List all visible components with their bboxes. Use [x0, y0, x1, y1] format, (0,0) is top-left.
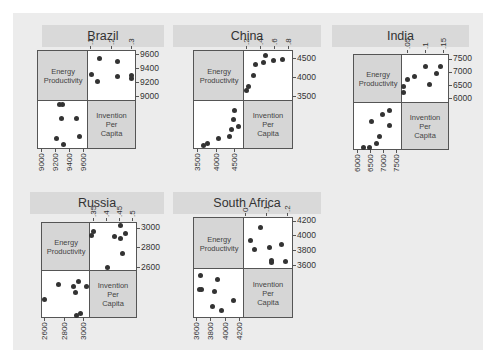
- y-tick-label-right: 3500: [293, 92, 316, 101]
- x-tick-label-top: .5: [129, 210, 137, 221]
- x-tick-label-bottom: 9200: [52, 149, 60, 171]
- y-tick-label-right: 2600: [137, 263, 160, 272]
- x-tick-label-top: .2: [284, 205, 292, 216]
- data-point: [387, 123, 392, 128]
- x-tick-label-top: .1: [263, 205, 271, 216]
- x-tick-label-top: .1: [87, 38, 95, 49]
- y-tick-label-right: 4000: [293, 231, 316, 240]
- data-point: [74, 116, 79, 121]
- x-tick-label-bottom: 9600: [80, 149, 88, 171]
- x-tick-label-bottom: 9000: [38, 149, 46, 171]
- data-point: [56, 282, 61, 287]
- data-point-mirrored: [118, 236, 123, 241]
- y-tick-label-right: 6000: [449, 94, 472, 103]
- x-tick-label-bottom: 4500: [231, 149, 239, 171]
- x-tick-label-top: .1: [422, 42, 430, 53]
- diag-label-invention-per-capita: Invention Per Capita: [244, 101, 292, 148]
- x-tick-label-top: .15: [440, 38, 448, 53]
- x-tick-label-bottom: 6000: [354, 150, 362, 172]
- x-tick-label-bottom: 4000: [213, 149, 221, 171]
- data-point: [215, 277, 220, 282]
- matrix-divider-horizontal: [193, 268, 293, 269]
- data-point-mirrored: [269, 258, 274, 263]
- data-point: [78, 311, 83, 316]
- data-point: [380, 112, 385, 117]
- diag-label-invention-per-capita: Invention Per Capita: [244, 269, 292, 317]
- matrix-divider-horizontal: [37, 100, 136, 101]
- data-point: [59, 116, 64, 121]
- data-point-mirrored: [89, 72, 94, 77]
- diag-label-invention-per-capita: Invention Per Capita: [402, 103, 448, 149]
- y-tick-label-right: 9200: [136, 78, 159, 87]
- diag-label-energy-productivity: Energy Productivity: [194, 218, 244, 269]
- x-tick-label-bottom: 3000: [80, 318, 88, 340]
- data-point-mirrored: [280, 57, 285, 62]
- y-tick-label-right: 9400: [136, 64, 159, 73]
- y-tick-label-right: 3600: [293, 261, 316, 270]
- y-tick-label-right: 7000: [449, 67, 472, 76]
- x-tick-label-bottom: 3500: [194, 149, 202, 171]
- data-point: [216, 136, 221, 141]
- x-tick-label-top: .4: [103, 210, 111, 221]
- x-tick-label-bottom: 3800: [207, 318, 215, 340]
- x-tick-label-top: .6: [271, 38, 279, 49]
- y-tick-label-right: 3800: [293, 246, 316, 255]
- diag-label-energy-productivity: Energy Productivity: [194, 51, 244, 101]
- x-tick-label-bottom: 4000: [222, 318, 230, 340]
- data-point: [231, 298, 236, 303]
- data-point: [361, 145, 366, 150]
- y-tick-label-right: 2800: [137, 243, 160, 252]
- y-tick-label-right: 4000: [293, 73, 316, 82]
- data-point: [210, 304, 215, 309]
- diag-label-energy-productivity: Energy Productivity: [38, 51, 88, 101]
- data-point: [229, 127, 234, 132]
- y-tick-label-right: 9600: [136, 50, 159, 59]
- x-tick-label-top: 0: [242, 208, 250, 216]
- x-tick-label-top: .8: [285, 38, 293, 49]
- data-point: [369, 119, 374, 124]
- y-tick-label-right: 4500: [293, 54, 316, 63]
- data-point: [60, 102, 65, 107]
- data-point: [367, 145, 372, 150]
- y-tick-label-right: 9000: [136, 92, 159, 101]
- y-tick-label-right: 7500: [449, 54, 472, 63]
- matrix-divider-horizontal: [41, 270, 137, 271]
- x-tick-label-bottom: 3600: [193, 318, 201, 340]
- data-point-mirrored: [105, 265, 110, 270]
- x-tick-label-bottom: 7500: [393, 150, 401, 172]
- data-point-mirrored: [405, 77, 410, 82]
- data-point: [231, 117, 236, 122]
- data-point-mirrored: [438, 64, 443, 69]
- x-tick-label-bottom: 4200: [236, 318, 244, 340]
- y-tick-label-right: 3000: [137, 223, 160, 232]
- data-point-mirrored: [95, 79, 100, 84]
- data-point-mirrored: [261, 60, 266, 65]
- data-point: [198, 273, 203, 278]
- y-tick-label-right: 6500: [449, 81, 472, 90]
- data-point: [227, 134, 232, 139]
- y-tick-label-right: 4200: [293, 216, 316, 225]
- diag-label-energy-productivity: Energy Productivity: [354, 55, 402, 103]
- x-tick-label-bottom: 2800: [61, 318, 69, 340]
- matrix-divider-horizontal: [353, 102, 449, 103]
- x-tick-label-top: .2: [243, 38, 251, 49]
- matrix-divider-horizontal: [193, 100, 293, 101]
- x-tick-label-top: .2: [108, 38, 116, 49]
- data-point-mirrored: [246, 84, 251, 89]
- x-tick-label-bottom: 7000: [380, 150, 388, 172]
- panel-title: Brazil: [42, 25, 164, 47]
- data-point-mirrored: [267, 245, 272, 250]
- data-point: [232, 108, 237, 113]
- data-point-mirrored: [123, 231, 128, 236]
- x-tick-label-bottom: 9400: [66, 149, 74, 171]
- panel-title: India: [332, 25, 469, 47]
- x-tick-label-bottom: 2600: [41, 318, 49, 340]
- data-point: [377, 134, 382, 139]
- data-point: [73, 290, 78, 295]
- data-point-mirrored: [97, 56, 102, 61]
- data-point-mirrored: [252, 247, 257, 252]
- x-tick-label-top: .3: [128, 38, 136, 49]
- data-point-mirrored: [248, 238, 253, 243]
- data-point: [84, 284, 89, 289]
- data-point-mirrored: [279, 242, 284, 247]
